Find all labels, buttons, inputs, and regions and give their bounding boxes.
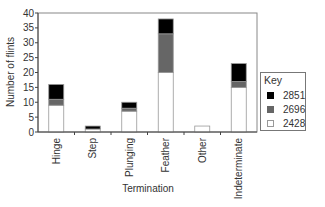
legend-label: 2696 — [283, 104, 305, 115]
plot-border — [38, 13, 257, 132]
legend-item-2696: 2696 — [267, 104, 307, 116]
y-tick-label: 5 — [28, 112, 34, 123]
x-tick-label: Other — [197, 137, 208, 163]
bar-segment-2428 — [195, 126, 210, 132]
bar-other — [195, 126, 210, 132]
bar-segment-2851 — [49, 84, 64, 99]
y-axis: 0510152025303540 — [23, 8, 38, 138]
plot-frame — [38, 13, 257, 132]
y-axis-title: Number of flints — [5, 37, 16, 107]
bar-segment-2428 — [158, 73, 173, 133]
bar-segment-2851 — [231, 64, 246, 82]
legend-label: 2851 — [283, 90, 305, 101]
x-tick-label: Step — [87, 138, 98, 159]
bar-feather — [158, 19, 173, 132]
y-tick-label: 35 — [23, 22, 35, 33]
legend-item-2851: 2851 — [267, 90, 307, 102]
bar-segment-2696 — [158, 34, 173, 73]
bar-segment-2428 — [122, 111, 137, 132]
bar-step — [85, 126, 100, 132]
y-tick-label: 10 — [23, 97, 35, 108]
bar-segment-2696 — [231, 81, 246, 87]
bar-segment-2428 — [49, 105, 64, 132]
x-tick-label: Feather — [160, 137, 171, 172]
y-tick-label: 30 — [23, 37, 35, 48]
bar-segment-2851 — [85, 126, 100, 129]
y-tick-label: 25 — [23, 52, 35, 63]
y-tick-label: 20 — [23, 67, 35, 78]
legend-title: Key — [264, 74, 282, 86]
x-tick-label: Plunging — [124, 138, 135, 177]
bar-hinge — [49, 84, 64, 132]
bar-plunging — [122, 102, 137, 132]
bar-segment-2696 — [49, 99, 64, 105]
bar-indeterminate — [231, 64, 246, 132]
bar-segment-2851 — [158, 19, 173, 34]
bar-segment-2696 — [122, 108, 137, 111]
legend-item-2428: 2428 — [267, 118, 307, 130]
legend: Key 2851 2696 2428 — [260, 72, 306, 131]
legend-label: 2428 — [283, 118, 305, 129]
x-axis-title: Termination — [122, 183, 174, 194]
bar-segment-2851 — [122, 102, 137, 108]
y-tick-label: 40 — [23, 8, 35, 19]
x-tick-label: Hinge — [51, 138, 62, 165]
x-tick-label: Indeterminate — [233, 138, 244, 200]
legend-swatch-white — [267, 120, 274, 127]
legend-swatch-gray — [267, 106, 274, 113]
bar-segment-2428 — [231, 87, 246, 132]
bars — [49, 19, 247, 132]
y-tick-label: 15 — [23, 82, 35, 93]
y-tick-label: 0 — [28, 127, 34, 138]
legend-swatch-black — [267, 92, 274, 99]
